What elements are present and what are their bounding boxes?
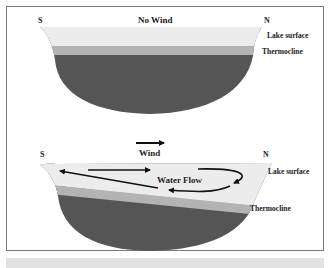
water-flow-label: Water Flow <box>157 176 202 185</box>
caption-bar <box>6 258 324 268</box>
top-lake-surface-label: Lake surface <box>267 32 308 40</box>
top-lake-cross-section <box>30 20 270 120</box>
top-title: No Wind <box>138 16 172 25</box>
bottom-lake-surface-label: Lake surface <box>268 168 309 176</box>
bottom-north-label: N <box>263 151 269 159</box>
bottom-south-label: S <box>40 151 44 159</box>
bottom-thermocline-label: Thermocline <box>250 205 291 213</box>
top-thermocline-label: Thermocline <box>262 48 303 56</box>
thermocline-layer <box>30 46 270 55</box>
lake-diagrams <box>0 0 329 268</box>
top-south-label: S <box>38 17 42 25</box>
top-north-label: N <box>264 17 270 25</box>
wind-label: Wind <box>139 149 160 158</box>
